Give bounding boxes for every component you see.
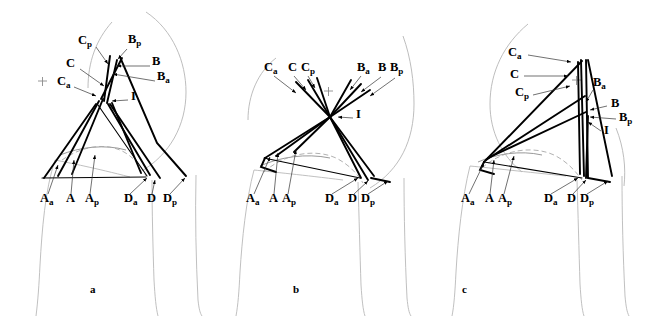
label-C: C (66, 56, 75, 70)
label-D: D (147, 191, 156, 205)
label-A: A (485, 191, 494, 205)
label-Ap: Ap (498, 191, 512, 207)
label-Dp: Dp (361, 191, 375, 207)
label-Ap: Ap (282, 191, 296, 207)
panel-c: Ca C Cp Ba B Bp I Aa A Ap Da D Dp c (436, 0, 654, 318)
panel-a: Cp Bp C B Ca Ba I Aa A Ap Da D Dp a (0, 0, 218, 318)
panel-letter-c: c (462, 283, 467, 295)
label-Dp: Dp (580, 191, 594, 207)
panel-b: Ca C Cp Ba B Bp I Aa A Ap Da D Dp b (218, 0, 436, 318)
label-A: A (66, 191, 75, 205)
panel-c-labels: Ca C Cp Ba B Bp I Aa A Ap Da D Dp (461, 45, 632, 207)
label-I: I (604, 123, 609, 137)
label-C: C (510, 67, 519, 81)
label-Bp: Bp (390, 60, 403, 76)
label-Aa: Aa (461, 191, 475, 207)
center-plus-marker (38, 77, 47, 86)
figure-canvas: Cp Bp C B Ca Ba I Aa A Ap Da D Dp a (0, 0, 654, 318)
label-Dp: Dp (163, 191, 177, 207)
label-D: D (348, 191, 357, 205)
label-Da: Da (325, 191, 339, 207)
label-Bp: Bp (619, 110, 632, 126)
label-Aa: Aa (246, 191, 260, 207)
bone-outline (452, 24, 629, 316)
label-Ca: Ca (57, 74, 71, 90)
label-I: I (356, 107, 361, 121)
label-Aa: Aa (40, 191, 54, 207)
label-Da: Da (544, 191, 558, 207)
center-plus-marker (324, 87, 333, 96)
label-D: D (567, 191, 576, 205)
label-Ba: Ba (593, 75, 606, 91)
label-Cp: Cp (301, 60, 315, 76)
label-Da: Da (124, 191, 138, 207)
label-B: B (152, 54, 160, 68)
label-I: I (131, 89, 136, 103)
label-A: A (269, 191, 278, 205)
ligament-bundles (261, 78, 390, 182)
label-Ca: Ca (264, 60, 278, 76)
label-Ca: Ca (508, 45, 522, 61)
label-Cp: Cp (515, 85, 529, 101)
panel-letter-a: a (90, 283, 96, 295)
label-Ba: Ba (357, 60, 370, 76)
label-Ap: Ap (85, 191, 99, 207)
label-Bp: Bp (128, 32, 141, 48)
bone-outline (236, 36, 414, 316)
panel-letter-b: b (293, 283, 299, 295)
label-B: B (611, 96, 619, 110)
center-plus-marker (572, 76, 581, 85)
label-C: C (288, 60, 297, 74)
label-Ba: Ba (157, 69, 170, 85)
panel-b-labels: Ca C Cp Ba B Bp I Aa A Ap Da D Dp (246, 60, 403, 207)
label-B: B (378, 60, 386, 74)
label-Cp: Cp (78, 33, 92, 49)
